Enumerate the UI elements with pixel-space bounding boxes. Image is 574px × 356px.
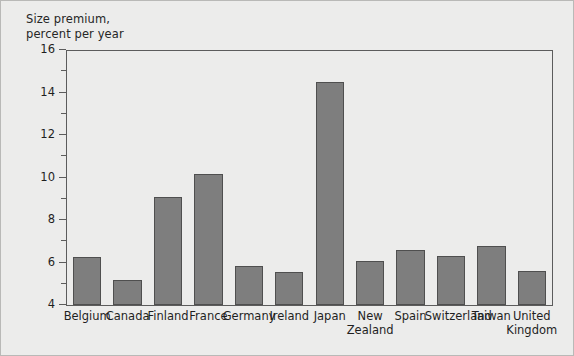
tick-mark — [59, 92, 66, 93]
tick-mark — [61, 70, 66, 71]
y-axis-tick-label: 16 — [15, 42, 55, 56]
y-axis-tick-label: 12 — [15, 127, 55, 141]
tick-mark — [59, 304, 66, 305]
tick-mark — [61, 155, 66, 156]
bar — [437, 256, 465, 305]
bar-slot — [518, 51, 546, 305]
tick-mark — [59, 49, 66, 50]
bar-slot — [73, 51, 101, 305]
y-axis-tick-label: 14 — [15, 85, 55, 99]
tick-mark — [59, 134, 66, 135]
chart-figure: Size premium, percent per year 468101214… — [0, 0, 574, 356]
tick-mark — [59, 219, 66, 220]
bar — [235, 266, 263, 305]
x-axis-labels: BelgiumCanadaFinlandFranceGermanyIreland… — [67, 309, 552, 354]
y-axis-tick-label: 8 — [15, 212, 55, 226]
bar-slot — [396, 51, 424, 305]
y-axis-tick-label: 6 — [15, 255, 55, 269]
y-axis: 46810121416 — [0, 50, 66, 307]
bar — [477, 246, 505, 306]
tick-mark — [59, 262, 66, 263]
tick-mark — [61, 283, 66, 284]
y-axis-title: Size premium, percent per year — [26, 12, 124, 42]
x-axis-tick-label: United Kingdom — [506, 309, 558, 337]
bar — [275, 272, 303, 305]
bar — [73, 257, 101, 305]
tick-mark — [59, 177, 66, 178]
bar — [113, 280, 141, 306]
bar-slot — [154, 51, 182, 305]
bar — [356, 261, 384, 305]
bar-slot — [235, 51, 263, 305]
y-axis-tick-label: 4 — [15, 297, 55, 311]
bar-slot — [356, 51, 384, 305]
bar — [396, 250, 424, 305]
bar — [154, 197, 182, 305]
bar-slot — [275, 51, 303, 305]
bar-slot — [316, 51, 344, 305]
bar-series — [67, 51, 552, 305]
tick-mark — [61, 198, 66, 199]
bar-slot — [477, 51, 505, 305]
bar-slot — [194, 51, 222, 305]
bar — [194, 174, 222, 305]
bar-slot — [113, 51, 141, 305]
bar-slot — [437, 51, 465, 305]
tick-mark — [61, 113, 66, 114]
bar — [518, 271, 546, 305]
tick-mark — [61, 240, 66, 241]
y-axis-tick-label: 10 — [15, 170, 55, 184]
bar — [316, 82, 344, 305]
